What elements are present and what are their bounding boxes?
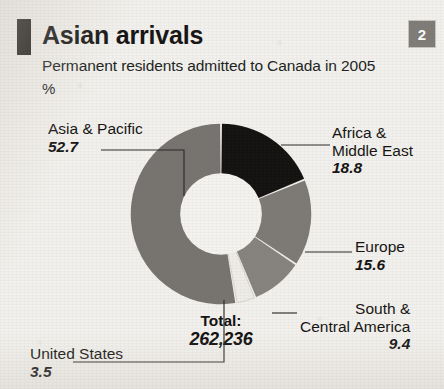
chart-header: Asian arrivals Permanent residents admit… <box>0 0 444 110</box>
callout-asia-pacific: Asia & Pacific 52.7 <box>48 120 143 155</box>
callout-value-africa-middle-east: 18.8 <box>332 159 413 177</box>
chart-subtitle: Permanent residents admitted to Canada i… <box>42 57 375 75</box>
callout-south-central-america: South & Central America 9.4 <box>300 300 410 353</box>
donut-center-hole <box>180 173 262 255</box>
callout-label-south-line1: South & <box>300 300 410 318</box>
total-value: 262,236 <box>166 329 276 349</box>
title-marker-bar <box>17 19 31 55</box>
callout-value-europe: 15.6 <box>355 256 405 274</box>
callout-value-south-central-america: 9.4 <box>300 335 410 353</box>
callout-label-africa-line2: Middle East <box>332 142 413 160</box>
callout-europe: Europe 15.6 <box>355 238 405 273</box>
donut-center-total: Total: 262,236 <box>166 312 276 350</box>
callout-africa-middle-east: Africa & Middle East 18.8 <box>332 124 413 177</box>
unit-label: % <box>42 80 55 97</box>
callout-united-states: United States 3.5 <box>30 345 123 380</box>
callout-label-europe: Europe <box>355 238 405 256</box>
total-label: Total: <box>166 312 276 329</box>
callout-label-africa-line1: Africa & <box>332 124 413 142</box>
donut-svg <box>126 119 316 309</box>
callout-value-asia-pacific: 52.7 <box>48 138 143 156</box>
page-title: Asian arrivals <box>42 21 203 50</box>
callout-label-asia-pacific: Asia & Pacific <box>48 120 143 138</box>
page-number-badge: 2 <box>409 21 435 47</box>
callout-label-south-line2: Central America <box>300 318 410 336</box>
callout-value-united-states: 3.5 <box>30 363 123 381</box>
callout-label-united-states: United States <box>30 345 123 363</box>
